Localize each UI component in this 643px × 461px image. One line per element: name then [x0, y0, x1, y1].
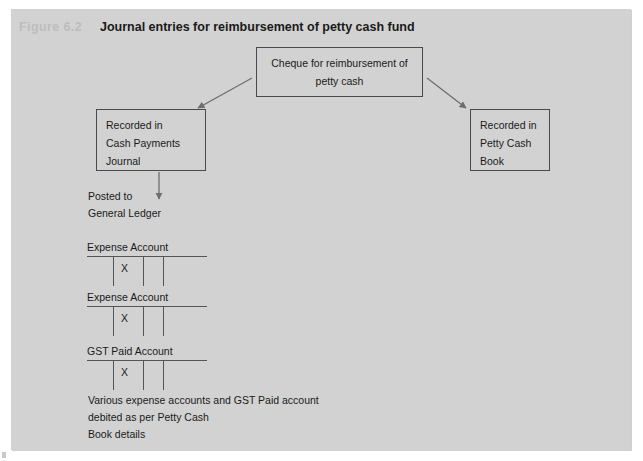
posted-to-text: Posted to General Ledger	[88, 188, 161, 222]
t-account-entry: X	[121, 262, 128, 274]
t-account-gst-paid: GST Paid Account X	[87, 345, 207, 390]
box-cpj-line-1: Recorded in	[106, 116, 205, 134]
box-cheque-line-1: Cheque for reimbursement of	[257, 54, 422, 72]
box-pcb-line-3: Book	[480, 152, 549, 170]
t-account-label: GST Paid Account	[87, 345, 207, 358]
box-cash-payments-journal: Recorded in Cash Payments Journal	[96, 109, 206, 171]
box-cheque: Cheque for reimbursement of petty cash	[256, 47, 423, 97]
figure-number-label: Figure 6.2	[19, 20, 82, 34]
t-account-rule-1	[113, 257, 114, 286]
t-account-grid: X	[87, 306, 207, 336]
t-account-expense-1: Expense Account X	[87, 241, 207, 286]
t-account-label: Expense Account	[87, 291, 207, 304]
footnote-text: Various expense accounts and GST Paid ac…	[88, 392, 319, 443]
page-title: Journal entries for reimbursement of pet…	[100, 20, 415, 34]
page-corner-mark	[2, 452, 6, 458]
t-account-rule-3	[163, 361, 164, 390]
box-cheque-line-2: petty cash	[257, 72, 422, 90]
box-cpj-line-3: Journal	[106, 152, 205, 170]
t-account-rule-3	[163, 257, 164, 286]
t-account-entry: X	[121, 366, 128, 378]
t-account-rule-2	[143, 257, 144, 286]
t-account-rule-1	[113, 361, 114, 390]
footnote-line-3: Book details	[88, 426, 319, 443]
footnote-line-2: debited as per Petty Cash	[88, 409, 319, 426]
t-account-expense-2: Expense Account X	[87, 291, 207, 336]
t-account-rule-1	[113, 307, 114, 336]
box-pcb-line-1: Recorded in	[480, 116, 549, 134]
t-account-entry: X	[121, 312, 128, 324]
t-account-grid: X	[87, 256, 207, 286]
t-account-rule-3	[163, 307, 164, 336]
box-petty-cash-book: Recorded in Petty Cash Book	[470, 109, 550, 171]
t-account-rule-2	[143, 361, 144, 390]
box-pcb-line-2: Petty Cash	[480, 134, 549, 152]
t-account-label: Expense Account	[87, 241, 207, 254]
t-account-rule-2	[143, 307, 144, 336]
posted-to-line-2: General Ledger	[88, 205, 161, 222]
box-cpj-line-2: Cash Payments	[106, 134, 205, 152]
posted-to-line-1: Posted to	[88, 188, 161, 205]
footnote-line-1: Various expense accounts and GST Paid ac…	[88, 392, 319, 409]
figure-diagram: Figure 6.2 Journal entries for reimburse…	[0, 0, 643, 461]
t-account-grid: X	[87, 360, 207, 390]
